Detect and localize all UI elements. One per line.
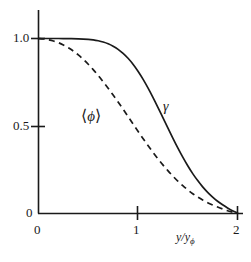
series-line-gamma	[39, 38, 238, 212]
x-axis-title-main: y/y	[176, 230, 190, 244]
angle-bracket-close-icon: ⟩	[95, 107, 101, 124]
series-line-phi-mean	[39, 39, 238, 214]
series-annotation-phi-mean: ⟨ϕ⟩	[81, 108, 101, 124]
x-tick-label-0: 0	[34, 223, 41, 236]
chart-figure: 1.0 0.5 0 0 1 2 ⟨ϕ⟩ γ y/yϕ	[0, 0, 251, 262]
axis-lines	[38, 10, 243, 214]
series-annotation-gamma: γ	[163, 100, 169, 114]
y-tick-label-0: 0	[26, 206, 33, 219]
y-tick-label-05: 0.5	[13, 119, 29, 132]
x-tick-label-1: 1	[133, 223, 140, 236]
x-axis-title-subscript: ϕ	[190, 236, 195, 246]
phi-symbol: ϕ	[87, 108, 95, 124]
x-tick-label-2: 2	[233, 223, 240, 236]
y-tick-label-1: 1.0	[13, 31, 29, 44]
x-axis-title: y/yϕ	[176, 231, 195, 246]
